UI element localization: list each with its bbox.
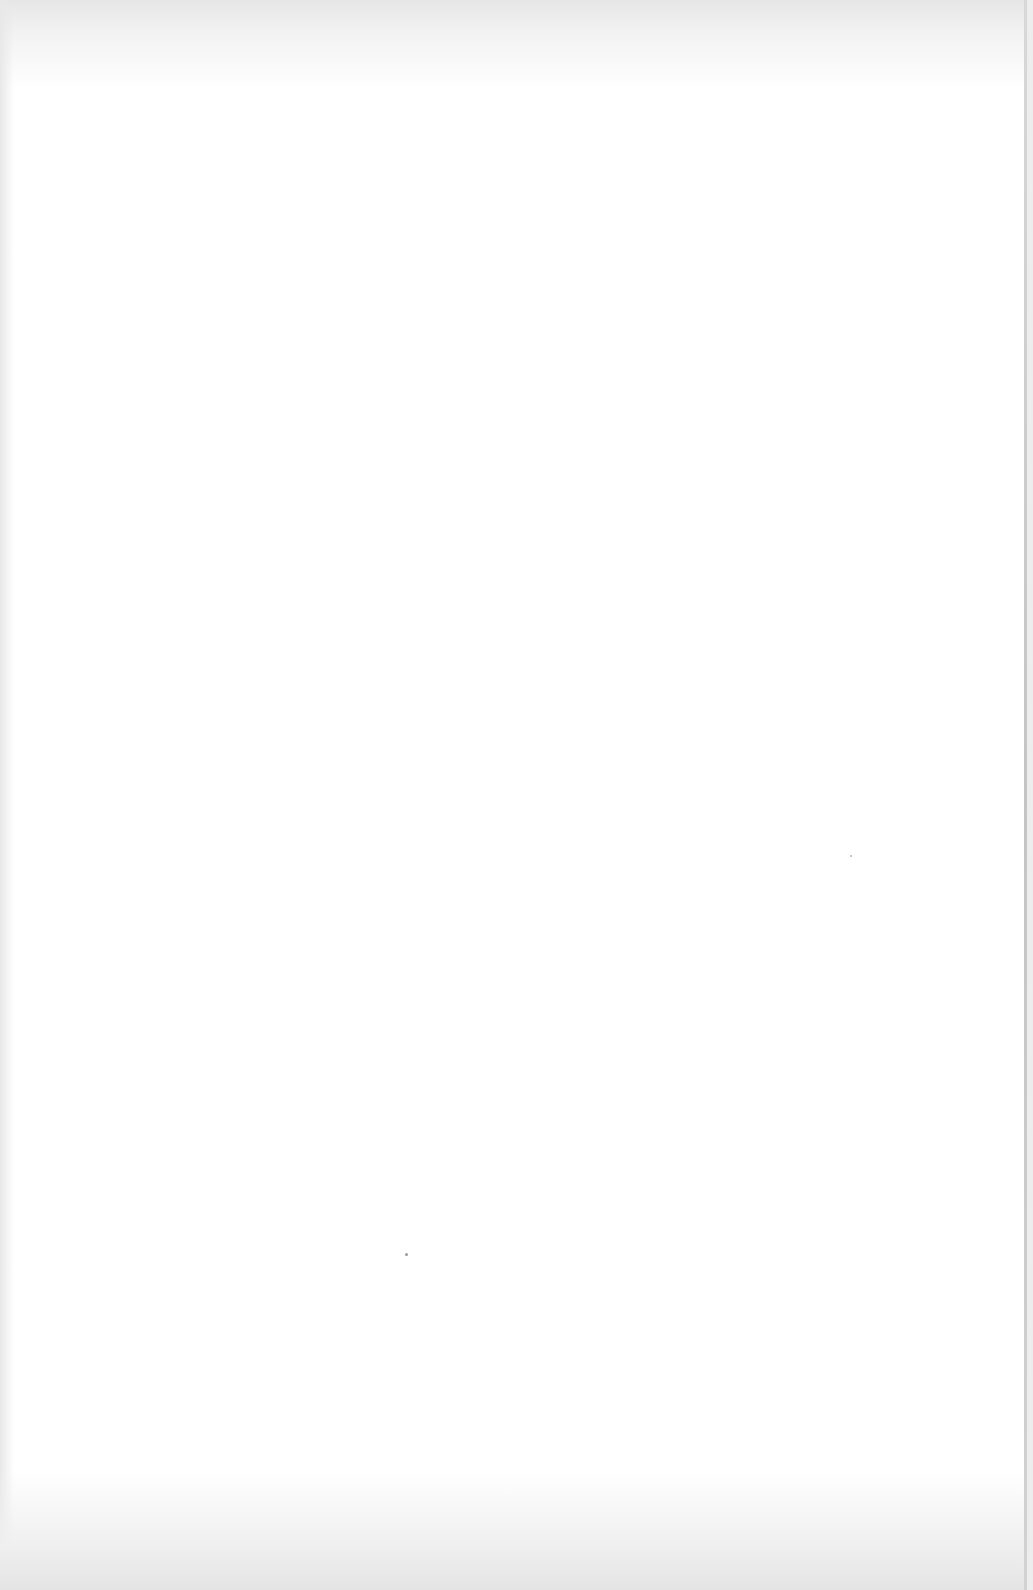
dust-speck <box>850 855 852 857</box>
left-scan-shadow <box>0 0 14 1590</box>
right-scan-margin <box>1027 0 1033 1590</box>
blank-page <box>0 0 1033 1590</box>
bottom-scan-shadow <box>0 1470 1033 1590</box>
page-edge-line <box>1024 0 1027 1590</box>
top-scan-shadow <box>0 0 1033 90</box>
dust-speck <box>405 1253 408 1256</box>
